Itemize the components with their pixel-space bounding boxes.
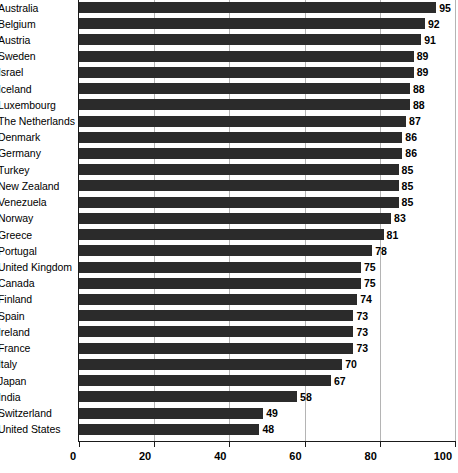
bar [79,34,421,45]
x-tick-label: 40 [214,450,229,462]
category-label: Portugal [0,246,73,257]
bar [79,229,384,240]
tick-mark-20 [154,441,155,447]
value-label: 67 [334,376,346,387]
bar [79,343,353,354]
value-label: 74 [360,294,372,305]
category-label: Italy [0,359,73,370]
category-label: Australia [0,3,73,14]
y-axis-line [78,0,79,441]
value-label: 58 [300,392,312,403]
value-label: 89 [417,67,429,78]
tick-mark-0 [79,441,80,447]
bar [79,83,410,94]
bar [79,408,263,419]
category-label: United States [0,424,73,435]
x-tick-label: 0 [70,450,79,462]
category-label: Turkey [0,165,73,176]
value-label: 83 [394,213,406,224]
category-label: Japan [0,376,73,387]
tick-mark-40 [229,441,230,447]
bar [79,213,391,224]
bar [79,359,342,370]
bar [79,67,414,78]
value-label: 87 [409,116,421,127]
value-label: 86 [405,148,417,159]
category-label: The Netherlands [0,116,73,127]
category-label: Belgium [0,19,73,30]
category-label: France [0,343,73,354]
bar [79,2,436,13]
bar [79,18,425,29]
bar [79,116,406,127]
bar [79,180,399,191]
bar [79,391,297,402]
value-label: 88 [413,84,425,95]
tick-mark-100 [455,441,456,447]
category-label: India [0,392,73,403]
category-label: Germany [0,148,73,159]
category-label: Sweden [0,51,73,62]
value-label: 75 [364,262,376,273]
value-label: 73 [356,343,368,354]
category-label: Venezuela [0,197,73,208]
x-tick-label: 20 [139,450,154,462]
x-axis-line [78,441,456,442]
value-label: 78 [375,246,387,257]
bar [79,424,259,435]
category-label: United Kingdom [0,262,73,273]
x-tick-label: 100 [434,450,455,462]
category-label: Greece [0,230,73,241]
category-label: Luxembourg [0,100,73,111]
category-label: Denmark [0,132,73,143]
category-label: Switzerland [0,408,73,419]
value-label: 91 [424,35,436,46]
value-label: 85 [402,181,414,192]
bar [79,326,353,337]
value-label: 92 [428,19,440,30]
value-label: 89 [417,51,429,62]
category-label: Finland [0,294,73,305]
tick-mark-80 [380,441,381,447]
value-label: 85 [402,165,414,176]
value-label: 49 [266,408,278,419]
bar [79,294,357,305]
bar [79,132,402,143]
value-label: 85 [402,197,414,208]
bar [79,197,399,208]
category-label: Spain [0,311,73,322]
category-label: Israel [0,67,73,78]
bar [79,310,353,321]
category-label: New Zealand [0,181,73,192]
gridline-100 [455,0,456,441]
category-label: Canada [0,278,73,289]
value-label: 95 [439,3,451,14]
category-label: Iceland [0,84,73,95]
x-tick-label: 60 [289,450,304,462]
bar [79,164,399,175]
value-label: 48 [262,424,274,435]
bar [79,148,402,159]
bar [79,99,410,110]
bar [79,375,331,386]
x-tick-label: 80 [365,450,380,462]
category-label: Norway [0,213,73,224]
bar [79,278,361,289]
value-label: 70 [345,359,357,370]
category-label: Austria [0,35,73,46]
bar [79,51,414,62]
tick-mark-60 [305,441,306,447]
value-label: 73 [356,327,368,338]
bar-chart: AustraliaBelgiumAustriaSwedenIsraelIcela… [0,0,458,473]
bar [79,245,372,256]
value-label: 86 [405,132,417,143]
category-axis-labels: AustraliaBelgiumAustriaSwedenIsraelIcela… [0,0,75,441]
value-label: 75 [364,278,376,289]
bar [79,262,361,273]
category-label: Ireland [0,327,73,338]
value-label: 73 [356,311,368,322]
value-label: 81 [387,230,399,241]
value-label: 88 [413,100,425,111]
